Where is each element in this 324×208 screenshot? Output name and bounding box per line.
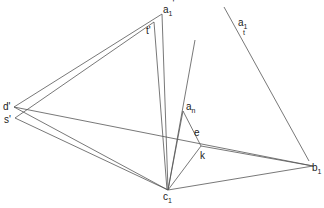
line-a1-t <box>224 7 309 161</box>
label-a1-t-sub: t <box>243 29 245 36</box>
label-b1: b1 <box>312 162 322 175</box>
line-s-t <box>15 22 154 118</box>
label-t-prime: t' <box>146 25 151 36</box>
label-a1prime: a1' <box>163 0 174 17</box>
line-an-c1 <box>168 111 183 190</box>
geometry-diagram: a1' t' d' s' c1 b1 e k an a1 t <box>0 0 324 208</box>
line-s-c1 <box>15 118 168 190</box>
line-c1-b1 <box>168 166 313 190</box>
label-s-prime: s' <box>4 114 11 125</box>
label-c1: c1 <box>163 191 172 204</box>
line-d-c1 <box>14 107 168 190</box>
label-k: k <box>200 150 206 161</box>
label-d-prime: d' <box>3 101 11 112</box>
label-an: an <box>186 101 196 114</box>
label-e: e <box>194 127 200 138</box>
line-d-a1prime <box>14 14 162 107</box>
line-d-b1 <box>14 107 313 166</box>
line-k-c1 <box>168 146 201 190</box>
line-k-b1 <box>201 146 313 166</box>
